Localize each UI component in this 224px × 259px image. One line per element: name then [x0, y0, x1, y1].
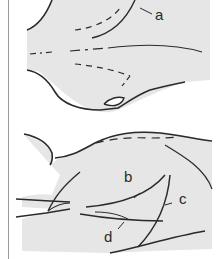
label-d: d: [104, 229, 112, 244]
bottom-illustration-panel: b c d: [0, 129, 224, 259]
top-illustration-panel: a: [0, 0, 224, 130]
label-c: c: [179, 191, 187, 206]
label-a: a: [155, 7, 163, 22]
top-anatomical-drawing: [0, 0, 224, 130]
label-b: b: [124, 169, 132, 184]
